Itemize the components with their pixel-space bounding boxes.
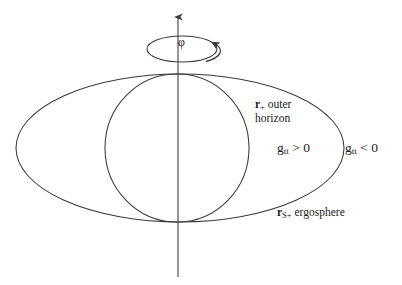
ergosphere-diagram-figure: φ r+ outer horizon gtt > 0 gtt < 0 rS+ e… [0,0,402,285]
outer-horizon-label-line2: horizon [255,112,291,125]
ergosphere-subscript: S+ [282,210,292,220]
gtt-positive-g-symbol: g [277,140,284,155]
outer-horizon-circle [105,74,249,222]
gtt-negative-g-symbol: g [345,140,352,155]
ergosphere-label-rest: ergosphere [292,206,345,218]
rotation-direction-arrow [206,44,220,62]
ergosphere-label: rS+ ergosphere [277,206,345,220]
gtt-negative-relation: < 0 [357,140,378,155]
phi-angle-label: φ [178,36,185,49]
gtt-positive-label: gtt > 0 [277,140,310,156]
gtt-positive-relation: > 0 [289,140,310,155]
outer-horizon-line1-rest: outer [265,98,292,110]
gtt-negative-label: gtt < 0 [345,140,378,156]
diagram-canvas [0,0,402,285]
outer-horizon-label: r+ outer horizon [255,98,291,125]
outer-horizon-label-line1: r+ outer [255,98,291,112]
